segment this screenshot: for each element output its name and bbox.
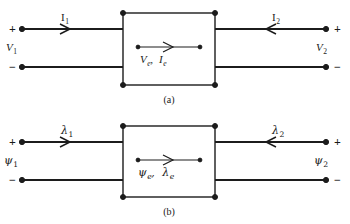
voltage-label-left-a: V1 [6, 42, 17, 53]
internal-first-subscript-a: e [147, 59, 150, 68]
voltage-label-right-a: V2 [316, 42, 327, 53]
terminal-dot-right-top-b [323, 139, 328, 144]
box-corner-dot [121, 195, 126, 200]
internal-arrow-dot-left-b [136, 158, 140, 162]
box-corner-dot [213, 83, 218, 88]
voltage-subscript-left-b: 1 [13, 160, 18, 169]
internal-variables-b: ψe, λe [138, 167, 174, 178]
current-label-left-b: λ1 [61, 125, 73, 136]
internal-arrow-dot-right-b [198, 158, 202, 162]
polarity-minus-right-b: − [334, 174, 341, 186]
figure-linework [0, 0, 350, 224]
terminal-dot-right-bottom-a [323, 64, 328, 69]
voltage-subscript-right-b: 2 [323, 160, 328, 169]
internal-second-subscript-b: e [170, 172, 175, 181]
caption-b: (b) [149, 207, 189, 217]
current-label-left-a: I1 [61, 12, 69, 23]
current-label-right-a: I2 [272, 12, 280, 23]
terminal-dot-left-bottom-a [19, 64, 24, 69]
terminal-dot-left-top-b [19, 139, 24, 144]
terminal-dot-right-bottom-b [323, 177, 328, 182]
internal-variables-a: Ve, Ie [140, 54, 166, 65]
voltage-symbol-right-b: ψ [314, 154, 323, 167]
box-corner-dot [121, 124, 126, 129]
current-subscript-right-b: 2 [280, 130, 285, 139]
internal-second-symbol-b: λ [162, 166, 169, 179]
polarity-plus-right-b: + [334, 136, 341, 148]
terminal-dot-right-top-a [323, 26, 328, 31]
internal-first-subscript-b: e [147, 172, 152, 181]
polarity-minus-left-a: − [9, 61, 16, 73]
polarity-plus-right-a: + [334, 23, 341, 35]
current-symbol-left-b: λ [61, 124, 68, 137]
two-port-network-figure: + − + − V1 V2 I1 I2 Ve, Ie (a) + − + − ψ… [0, 0, 350, 224]
terminal-dot-left-bottom-b [19, 177, 24, 182]
voltage-subscript-left-a: 1 [13, 47, 17, 56]
voltage-subscript-right-a: 2 [323, 47, 327, 56]
current-symbol-right-b: λ [272, 124, 279, 137]
internal-arrow-dot-right-a [198, 45, 202, 49]
box-corner-dot [213, 124, 218, 129]
polarity-minus-left-b: − [9, 174, 16, 186]
box-corner-dot [121, 83, 126, 88]
internal-first-symbol-b: ψ [138, 166, 147, 179]
caption-a: (a) [149, 95, 189, 105]
voltage-label-right-b: ψ2 [314, 155, 328, 166]
box-corner-dot [121, 11, 126, 16]
box-corner-dot [213, 195, 218, 200]
polarity-plus-left-b: + [9, 136, 16, 148]
internal-second-subscript-a: e [163, 59, 166, 68]
voltage-symbol-left-a: V [6, 41, 13, 53]
terminal-dot-left-top-a [19, 26, 24, 31]
box-corner-dot [213, 11, 218, 16]
voltage-symbol-right-a: V [316, 41, 323, 53]
voltage-label-left-b: ψ1 [4, 155, 18, 166]
polarity-plus-left-a: + [9, 23, 16, 35]
internal-first-symbol-a: V [140, 53, 147, 65]
current-subscript-right-a: 2 [276, 17, 280, 26]
current-subscript-left-a: 1 [65, 17, 69, 26]
voltage-symbol-left-b: ψ [4, 154, 13, 167]
current-subscript-left-b: 1 [69, 130, 74, 139]
internal-arrow-dot-left-a [136, 45, 140, 49]
current-label-right-b: λ2 [272, 125, 284, 136]
polarity-minus-right-a: − [334, 61, 341, 73]
